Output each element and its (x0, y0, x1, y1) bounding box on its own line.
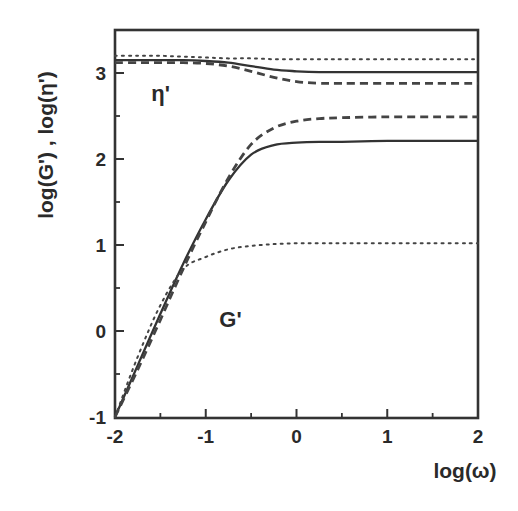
y-tick-label: 2 (95, 149, 106, 170)
series-dotted-line (115, 56, 478, 60)
x-tick-label: -2 (107, 426, 124, 447)
y-axis-ticks (115, 73, 124, 374)
x-tick-label: 1 (382, 426, 393, 447)
y-tick-label: 1 (95, 235, 106, 256)
annotation-g-prime: G' (219, 307, 241, 332)
x-axis-label: log(ω) (433, 459, 496, 482)
x-tick-label: 2 (473, 426, 484, 447)
series-solid-line (115, 141, 478, 417)
series-dashed-line (115, 117, 478, 417)
y-tick-label: 3 (95, 63, 106, 84)
x-tick-label: -1 (197, 426, 214, 447)
y-tick-label: -1 (89, 407, 106, 428)
annotation-eta-prime: η' (151, 81, 170, 106)
data-series (115, 56, 478, 417)
x-tick-label: 0 (291, 426, 302, 447)
x-axis-ticks (160, 409, 432, 418)
y-axis-tick-labels: -10123 (89, 63, 106, 428)
x-axis-tick-labels: -2-1012 (107, 426, 484, 447)
y-tick-label: 0 (95, 321, 106, 342)
line-chart: -2-1012 -10123 η' G' log(ω) log(G') , lo… (0, 0, 518, 511)
series-dotted-line (115, 243, 478, 417)
y-axis-label: log(G') , log(η') (34, 71, 57, 219)
